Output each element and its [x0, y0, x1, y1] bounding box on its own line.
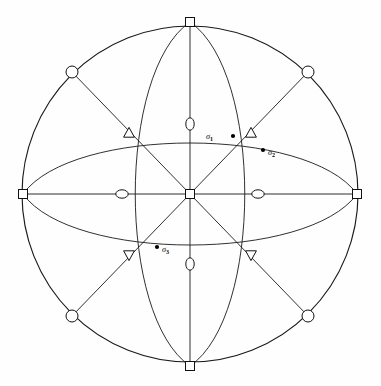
- label-sigma1: σ1: [206, 132, 213, 142]
- square-east: [353, 190, 362, 199]
- circle-se-rim: [302, 310, 314, 322]
- ellipse-north-mid: [186, 118, 194, 130]
- circle-nw-rim: [66, 66, 78, 78]
- label-sigma1-sub: 1: [210, 136, 213, 142]
- dot-sigma1: [231, 134, 235, 138]
- circle-ne-rim: [302, 66, 314, 78]
- circle-sw-rim: [66, 310, 78, 322]
- triangle-ne-inner: [246, 127, 257, 137]
- label-sigma3: σ3: [162, 245, 169, 255]
- ellipse-south-mid: [186, 258, 194, 270]
- square-south: [186, 362, 195, 371]
- square-west: [19, 190, 28, 199]
- triangle-se-inner: [246, 251, 257, 261]
- pole-markers: [155, 134, 265, 249]
- triangle-sw-inner: [124, 251, 135, 261]
- stereographic-projection-svg: σ1 σ2 σ3: [0, 0, 381, 386]
- label-sigma3-sub: 3: [166, 249, 169, 255]
- square-north: [186, 18, 195, 27]
- dot-sigma2: [261, 148, 265, 152]
- ellipse-west-mid: [116, 190, 128, 198]
- label-sigma2: σ2: [268, 148, 275, 158]
- dot-sigma3: [155, 245, 159, 249]
- label-sigma2-sub: 2: [272, 152, 275, 158]
- stereographic-figure: σ1 σ2 σ3: [0, 0, 381, 386]
- square-center: [186, 190, 195, 199]
- triangle-nw-inner: [124, 127, 135, 137]
- ellipse-east-mid: [252, 190, 264, 198]
